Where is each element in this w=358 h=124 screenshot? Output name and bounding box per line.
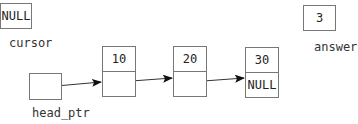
answer-label: answer: [314, 40, 357, 54]
answer-box: 3: [303, 5, 336, 31]
node-data: 10: [103, 47, 135, 72]
node-link: NULL: [246, 73, 278, 98]
node-data: 30: [246, 48, 278, 73]
list-node-2: 20: [173, 46, 207, 97]
head-ptr-box: [29, 73, 62, 100]
list-node-3: 30 NULL: [245, 47, 279, 98]
head-ptr-label: head_ptr: [32, 106, 90, 120]
node-link: [174, 72, 206, 97]
node-link: [103, 72, 135, 97]
list-node-1: 10: [102, 46, 136, 97]
cursor-box: NULL: [0, 3, 32, 29]
cursor-label: cursor: [9, 36, 52, 50]
node-data: 20: [174, 47, 206, 72]
